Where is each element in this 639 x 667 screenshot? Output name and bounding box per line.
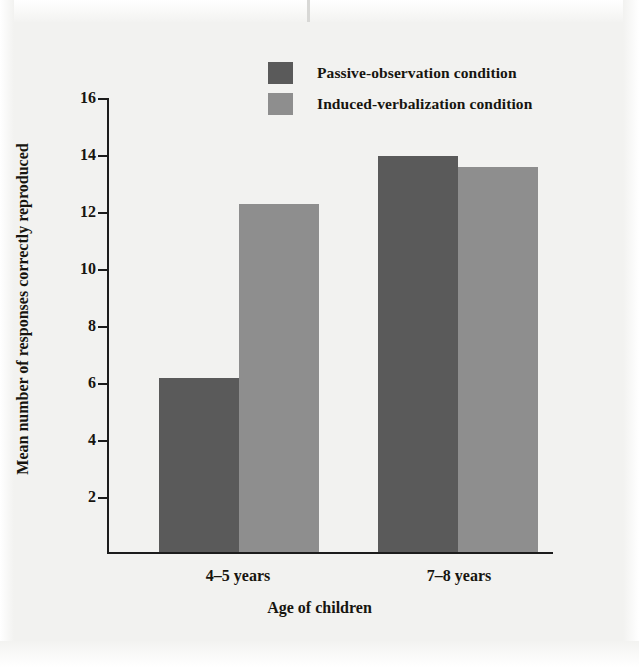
y-axis-tick-14 bbox=[98, 155, 107, 157]
plot-area bbox=[107, 98, 553, 554]
bar-7-8-years-induced-verbalization bbox=[458, 167, 538, 552]
bar-7-8-years-passive-observation bbox=[378, 156, 458, 552]
y-axis-tick-16 bbox=[98, 98, 107, 100]
y-tick-label-12: 12 bbox=[66, 203, 96, 221]
page-edge-top bbox=[0, 0, 639, 22]
page-edge-left bbox=[0, 0, 14, 667]
page-spine-mark bbox=[307, 0, 310, 22]
legend-swatch-passive-observation bbox=[268, 62, 293, 84]
bar-chart-figure: Passive-observation condition Induced-ve… bbox=[0, 0, 639, 667]
y-tick-label-8: 8 bbox=[66, 317, 96, 335]
x-axis-line bbox=[107, 552, 553, 554]
y-tick-label-6: 6 bbox=[66, 374, 96, 392]
y-tick-label-2: 2 bbox=[66, 488, 96, 506]
x-axis-title: Age of children bbox=[0, 599, 639, 617]
y-tick-label-10: 10 bbox=[66, 260, 96, 278]
y-axis-tick-6 bbox=[98, 383, 107, 385]
y-tick-label-4: 4 bbox=[66, 431, 96, 449]
y-tick-label-14: 14 bbox=[66, 146, 96, 164]
y-axis-tick-4 bbox=[98, 440, 107, 442]
bar-4-5-years-induced-verbalization bbox=[239, 204, 319, 552]
y-axis-tick-10 bbox=[98, 269, 107, 271]
y-axis-title: Mean number of responses correctly repro… bbox=[14, 99, 32, 519]
bar-4-5-years-passive-observation bbox=[159, 378, 239, 552]
y-axis-tick-12 bbox=[98, 212, 107, 214]
legend-item-passive-observation: Passive-observation condition bbox=[268, 57, 532, 88]
legend-label-passive-observation: Passive-observation condition bbox=[317, 64, 517, 82]
y-axis-tick-8 bbox=[98, 326, 107, 328]
y-axis-line bbox=[107, 98, 109, 554]
page-edge-right bbox=[623, 0, 639, 667]
x-category-label-4-5-years: 4–5 years bbox=[206, 567, 270, 585]
x-category-label-7-8-years: 7–8 years bbox=[427, 567, 491, 585]
y-axis-tick-2 bbox=[98, 497, 107, 499]
y-tick-label-16: 16 bbox=[66, 89, 96, 107]
page-edge-bottom bbox=[0, 641, 639, 667]
